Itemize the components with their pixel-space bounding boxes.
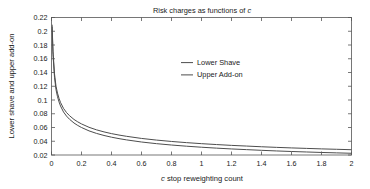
y-axis-label: Lower shave and upper add-on — [7, 33, 16, 138]
legend-label-upper-add-on: Upper Add-on — [197, 70, 243, 79]
x-tick-label: 0.8 — [167, 159, 177, 168]
chart-title-italic-token: c — [247, 6, 251, 15]
x-tick-label: 0.6 — [137, 159, 147, 168]
y-tick-label: 0.04 — [34, 137, 48, 146]
y-tick-label: 0.02 — [34, 151, 48, 160]
chart-title: Risk charges as functions of c — [153, 6, 251, 15]
x-tick-label: 1.2 — [227, 159, 237, 168]
x-tick-label: 1.4 — [257, 159, 267, 168]
y-tick-label: 0.1 — [38, 96, 48, 105]
y-tick-label: 0.06 — [34, 123, 48, 132]
x-tick-label: 1.6 — [287, 159, 297, 168]
risk-charges-line-chart: Risk charges as functions of c 00.20.40.… — [0, 0, 370, 189]
y-tick-label: 0.16 — [34, 54, 48, 63]
x-axis-label: c stop reweighting count — [161, 174, 244, 183]
chart-title-text: Risk charges as functions of — [153, 6, 247, 15]
chart-background — [0, 0, 370, 189]
x-axis-label-text: stop reweighting count — [165, 174, 244, 183]
x-tick-label: 1.8 — [317, 159, 327, 168]
y-tick-label: 0.14 — [34, 68, 48, 77]
y-tick-label: 0.2 — [38, 27, 48, 36]
y-tick-label: 0.12 — [34, 82, 48, 91]
y-tick-label: 0.18 — [34, 41, 48, 50]
y-tick-label: 0.08 — [34, 109, 48, 118]
legend-label-lower-shave: Lower Shave — [197, 58, 240, 67]
chart-figure: Risk charges as functions of c 00.20.40.… — [0, 0, 370, 189]
x-tick-label: 1 — [200, 159, 204, 168]
x-tick-label: 0.2 — [77, 159, 87, 168]
x-tick-label: 0 — [50, 159, 54, 168]
x-tick-label: 2 — [350, 159, 354, 168]
y-tick-label: 0.22 — [34, 13, 48, 22]
x-tick-label: 0.4 — [107, 159, 117, 168]
